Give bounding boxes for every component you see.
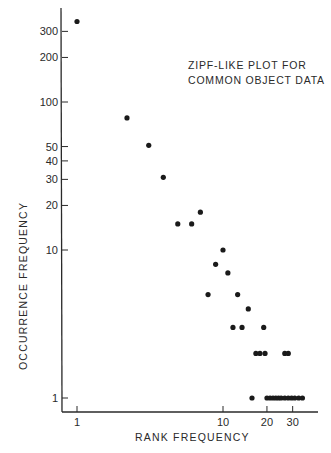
data-point	[230, 325, 235, 330]
data-point	[249, 395, 254, 400]
data-point	[300, 395, 305, 400]
zipf-chart: 11020304050100200300 1102030 ZIPF-LIKE P…	[0, 0, 331, 453]
data-point	[198, 210, 203, 215]
y-axis-line	[61, 8, 62, 412]
data-point	[235, 292, 240, 297]
y-axis-ticks: 11020304050100200300	[40, 25, 68, 404]
data-point	[146, 143, 151, 148]
data-point	[261, 325, 266, 330]
x-axis-ticks: 1102030	[74, 406, 299, 428]
y-tick-label: 200	[40, 51, 58, 63]
data-point	[205, 292, 210, 297]
x-tick-label: 30	[287, 416, 299, 428]
data-point	[213, 262, 218, 267]
chart-title-line-2: COMMON OBJECT DATA	[188, 74, 325, 86]
data-point	[175, 221, 180, 226]
y-tick-label: 1	[52, 392, 58, 404]
data-point	[225, 270, 230, 275]
y-tick-label: 10	[46, 244, 58, 256]
y-axis-title: OCCURRENCE FREQUENCY	[17, 202, 29, 370]
data-point	[161, 175, 166, 180]
x-axis-title: RANK FREQUENCY	[135, 431, 250, 443]
data-point	[74, 19, 79, 24]
x-tick-label: 10	[217, 416, 229, 428]
data-point	[220, 247, 225, 252]
y-tick-label: 20	[46, 199, 58, 211]
data-point	[239, 325, 244, 330]
data-point	[246, 306, 251, 311]
chart-title-line-1: ZIPF-LIKE PLOT FOR	[188, 59, 307, 71]
y-tick-label: 300	[40, 25, 58, 37]
y-tick-label: 100	[40, 96, 58, 108]
y-tick-label: 40	[46, 155, 58, 167]
data-point	[262, 351, 267, 356]
x-tick-label: 20	[261, 416, 273, 428]
data-point	[189, 221, 194, 226]
data-point	[257, 351, 262, 356]
x-tick-label: 1	[74, 416, 80, 428]
y-tick-label: 50	[46, 141, 58, 153]
data-point	[286, 351, 291, 356]
data-point	[124, 115, 129, 120]
y-tick-label: 30	[46, 173, 58, 185]
